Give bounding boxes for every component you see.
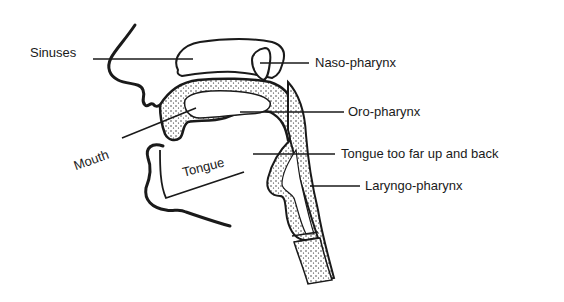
oral-cavity — [185, 91, 271, 118]
label-sinuses: Sinuses — [30, 46, 76, 60]
face-profile-outline — [109, 25, 160, 106]
label-naso-pharynx: Naso-pharynx — [315, 56, 396, 70]
label-laryngo-pharynx: Laryngo-pharynx — [365, 179, 463, 193]
label-tongue-too-far-up-and-back: Tongue too far up and back — [341, 147, 499, 161]
label-oro-pharynx: Oro-pharynx — [348, 105, 420, 119]
